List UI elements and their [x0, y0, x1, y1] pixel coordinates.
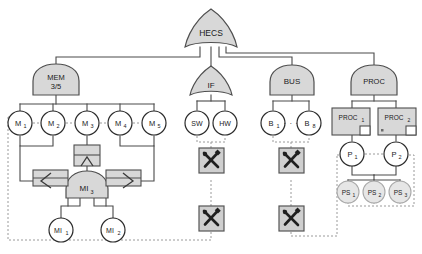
proc2-marker-dot [381, 129, 384, 132]
bus-ellipsis: · · · [284, 119, 299, 128]
basic-event-mi1-sub: 1 [65, 230, 68, 236]
basic-event-ps3[interactable]: PS 3 [389, 181, 411, 203]
basic-event-b8[interactable]: B 8 [297, 111, 321, 135]
basic-event-b1-label: B [268, 119, 273, 128]
gate-proc[interactable]: PROC [351, 65, 397, 95]
basic-event-ps1-sub: 1 [353, 192, 356, 198]
basic-event-p2[interactable]: P 2 [384, 142, 408, 166]
basic-event-hw[interactable]: HW [213, 111, 237, 135]
basic-event-ps2[interactable]: PS 2 [363, 181, 385, 203]
basic-event-b8-sub: 8 [312, 123, 315, 129]
basic-event-m3-sub: 3 [90, 123, 93, 129]
basic-event-b1-sub: 1 [276, 123, 279, 129]
module-proc1-label: PROC [339, 114, 358, 121]
module-proc1-sub: 1 [362, 117, 365, 123]
basic-event-m4-label: M [115, 119, 121, 128]
basic-event-mi2-sub: 2 [117, 230, 120, 236]
tool-icon-if-upper[interactable] [199, 148, 224, 173]
basic-event-ps3-label: PS [394, 189, 403, 196]
basic-event-sw[interactable]: SW [185, 111, 209, 135]
basic-event-p2-sub: 2 [398, 154, 401, 160]
basic-event-m1[interactable]: M 1 [8, 111, 32, 135]
gate-if[interactable]: IF [190, 66, 232, 95]
module-proc1[interactable]: PROC 1 [332, 108, 370, 135]
basic-event-ps3-sub: 3 [405, 192, 408, 198]
gate-bus-label: BUS [284, 77, 300, 86]
basic-event-m2-label: M [48, 119, 54, 128]
basic-event-p1-sub: 1 [354, 154, 357, 160]
basic-event-m1-sub: 1 [23, 123, 26, 129]
gate-proc-label: PROC [363, 77, 385, 86]
transfer-out-right[interactable] [106, 170, 141, 188]
transfer-up[interactable] [74, 145, 100, 166]
basic-event-m5[interactable]: M 5 [142, 111, 166, 135]
basic-event-ps1-label: PS [342, 189, 351, 196]
gate-hecs-label: HECS [199, 28, 223, 38]
basic-event-m2-sub: 2 [56, 123, 59, 129]
basic-event-mi2-label: MI [106, 227, 114, 234]
gate-hecs[interactable]: HECS [185, 9, 237, 47]
basic-event-ps1[interactable]: PS 1 [337, 181, 359, 203]
gate-mi3-sublabel: 3 [90, 189, 93, 195]
tool-icon-if-lower[interactable] [199, 206, 224, 231]
tool-icon-bus-upper[interactable] [279, 148, 304, 173]
gate-bus[interactable]: BUS [270, 65, 314, 95]
basic-event-mi1[interactable]: MI 1 [49, 218, 73, 242]
basic-event-m5-sub: 5 [157, 123, 160, 129]
gate-mem-label: MEM [47, 73, 65, 82]
basic-event-m4-sub: 4 [123, 123, 126, 129]
basic-event-m5-label: M [149, 119, 155, 128]
basic-event-mi1-label: MI [54, 227, 62, 234]
tool-icon-bus-lower[interactable] [279, 206, 304, 231]
transfer-in-left[interactable] [33, 170, 68, 188]
basic-event-ps2-label: PS [368, 189, 377, 196]
gate-if-label: IF [207, 81, 214, 90]
module-proc2-label: PROC [385, 114, 404, 121]
basic-event-b1[interactable]: B 1 [261, 111, 285, 135]
basic-event-m3-label: M [82, 119, 88, 128]
module-proc2[interactable]: PROC 2 [378, 108, 416, 135]
basic-event-m2[interactable]: M 2 [41, 111, 65, 135]
basic-event-p1-label: P [347, 150, 352, 159]
gate-mi3-label: MI [80, 184, 89, 193]
basic-event-b8-label: B [304, 119, 309, 128]
basic-event-p2-label: P [391, 150, 396, 159]
gate-mi3[interactable]: MI 3 [66, 171, 108, 198]
basic-event-hw-label: HW [219, 120, 231, 127]
basic-event-ps2-sub: 2 [379, 192, 382, 198]
basic-event-mi2[interactable]: MI 2 [101, 218, 125, 242]
module-proc2-sub: 2 [408, 117, 411, 123]
gate-mem[interactable]: MEM 3/5 [33, 64, 79, 95]
basic-event-sw-label: SW [191, 120, 203, 127]
fault-tree-diagram: HECS MEM 3/5 IF BUS PROC MI 3 [0, 0, 422, 254]
basic-event-m3[interactable]: M 3 [75, 111, 99, 135]
basic-event-p1[interactable]: P 1 [340, 142, 364, 166]
gate-mem-sublabel: 3/5 [51, 82, 61, 91]
basic-event-m4[interactable]: M 4 [108, 111, 132, 135]
basic-event-m1-label: M [15, 119, 21, 128]
